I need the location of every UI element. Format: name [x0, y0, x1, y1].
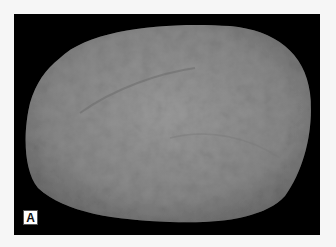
- panel-label: A: [23, 210, 38, 225]
- figure-panel: A: [14, 14, 320, 235]
- specimen-image: [20, 18, 314, 228]
